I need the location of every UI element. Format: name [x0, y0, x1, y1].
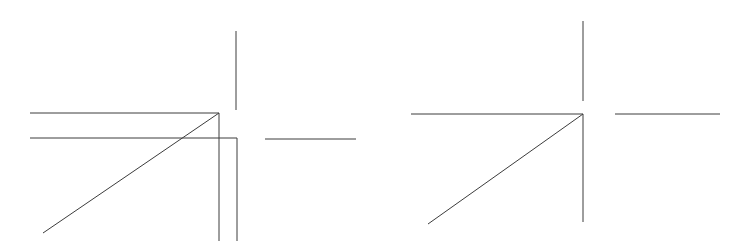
line-drawing-svg	[0, 0, 747, 245]
canvas-background	[0, 0, 747, 245]
drawing-canvas	[0, 0, 747, 245]
